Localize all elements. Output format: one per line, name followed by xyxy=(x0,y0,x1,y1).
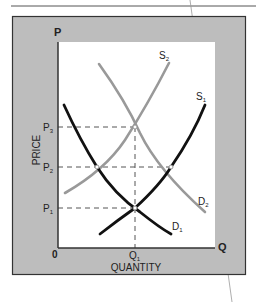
equilibrium-s2-d1 xyxy=(95,165,99,169)
equilibrium-s1-d2 xyxy=(169,165,173,169)
x-axis-letter: Q xyxy=(218,241,227,253)
y-axis-letter: P xyxy=(54,26,61,38)
x-axis-title: QUANTITY xyxy=(111,262,162,273)
supply-demand-diagram: P Q 0 PRICE QUANTITY P3 P2 P1 Q1 S2 S1 D… xyxy=(0,0,256,302)
equilibrium-s2-d2 xyxy=(133,125,137,129)
origin-label: 0 xyxy=(52,249,58,260)
y-axis-title: PRICE xyxy=(31,134,42,165)
equilibrium-s1-d1 xyxy=(133,206,137,210)
plot-area xyxy=(58,42,215,248)
